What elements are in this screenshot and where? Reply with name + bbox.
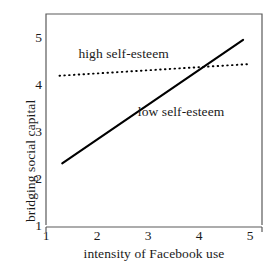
series-line-high-self-esteem — [60, 64, 249, 76]
plot-area — [0, 0, 280, 270]
series-label-high-self-esteem: high self-esteem — [78, 46, 168, 62]
series-label-low-self-esteem: low self-esteem — [138, 104, 225, 120]
chart-figure: bridging social capital 5 4 3 2 1 1 2 3 … — [0, 0, 280, 270]
